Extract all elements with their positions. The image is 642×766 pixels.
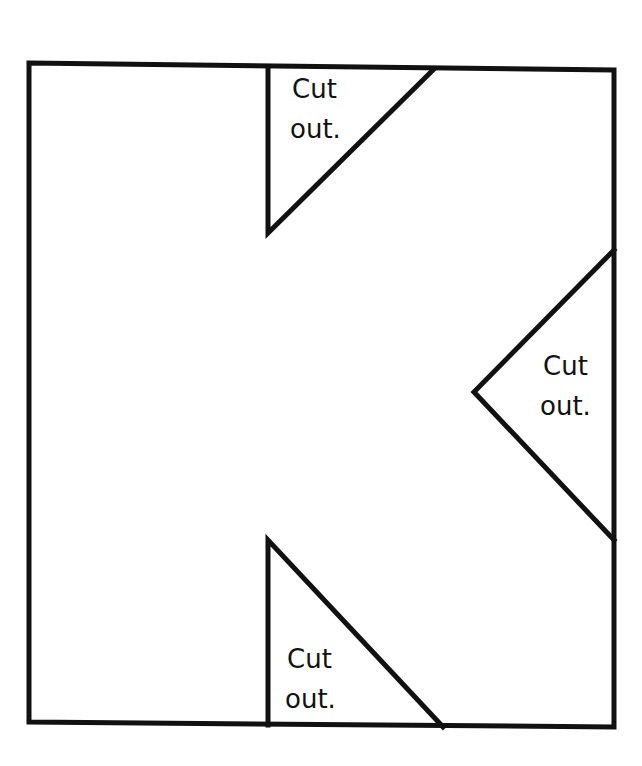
cutout-right: Cut out. — [474, 250, 614, 540]
outer-rectangle — [29, 63, 614, 727]
cutout-top-label-line2: out. — [290, 114, 341, 144]
cutout-top-label-line1: Cut — [292, 74, 337, 104]
cutout-bottom-label-line2: out. — [285, 684, 336, 714]
cutout-bottom: Cut out. — [268, 540, 443, 727]
cutout-top: Cut out. — [268, 68, 433, 233]
cutout-bottom-label-line1: Cut — [287, 644, 332, 674]
cutout-right-label-line2: out. — [540, 391, 591, 421]
cutout-diagram: Cut out. Cut out. Cut out. — [0, 0, 642, 766]
cutout-right-label-line1: Cut — [543, 351, 588, 381]
